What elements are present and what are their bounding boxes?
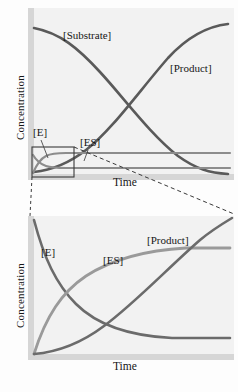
y-axis-label-top: Concentration [14, 75, 26, 140]
curve-e [33, 155, 230, 168]
curve-product [34, 24, 228, 172]
label-complex-bottom: [ES] [103, 254, 123, 266]
label-enzyme-top: [E] [33, 126, 47, 138]
panel-overall-time-course: Concentration Time [Substrate] [Product]… [0, 0, 238, 196]
label-substrate-top: [Substrate] [63, 29, 111, 41]
curve-e-zoom [34, 220, 230, 338]
label-complex-top: [ES] [80, 136, 100, 148]
label-product-bottom: [Product] [147, 234, 189, 246]
panel-pre-steady-state: Concentration Time [Product] [E] [ES] [0, 196, 238, 392]
leader-e-top [41, 140, 48, 158]
x-axis-label-top: Time [113, 176, 137, 188]
y-axis-label-bottom: Concentration [14, 263, 26, 328]
enzyme-kinetics-figure: Concentration Time [Substrate] [Product]… [0, 0, 238, 392]
curves-top [0, 0, 238, 196]
x-axis-label-bottom: Time [113, 360, 137, 372]
label-product-top: [Product] [170, 62, 212, 74]
label-enzyme-bottom: [E] [41, 246, 55, 258]
